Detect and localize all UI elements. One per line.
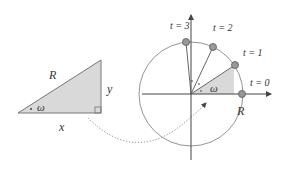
angle-dot	[30, 108, 32, 110]
dotted-arrow	[88, 103, 206, 143]
point-t0	[239, 91, 246, 98]
hypotenuse-label: R	[48, 68, 57, 82]
angle-label: ω	[37, 101, 45, 113]
point-t3	[183, 39, 190, 46]
circle-angle-label: ω	[210, 82, 218, 94]
radius-t3	[186, 42, 191, 94]
base-label: x	[58, 120, 65, 134]
label-t3: t = 3	[170, 20, 190, 31]
label-t1: t = 1	[243, 47, 263, 58]
vertical-side-label: y	[106, 82, 113, 96]
point-t1	[232, 62, 239, 69]
label-t0: t = 0	[250, 77, 270, 88]
angle-dot	[198, 83, 200, 85]
point-t2	[210, 44, 217, 51]
label-t2: t = 2	[213, 22, 233, 33]
rotation-diagram: R y x ω t = 0 t = 1 t = 2 t = 3 ω R	[0, 0, 284, 172]
radius-label: R	[236, 104, 245, 118]
angle-dot	[191, 80, 193, 82]
left-triangle	[18, 60, 101, 113]
angle-dot	[200, 90, 202, 92]
